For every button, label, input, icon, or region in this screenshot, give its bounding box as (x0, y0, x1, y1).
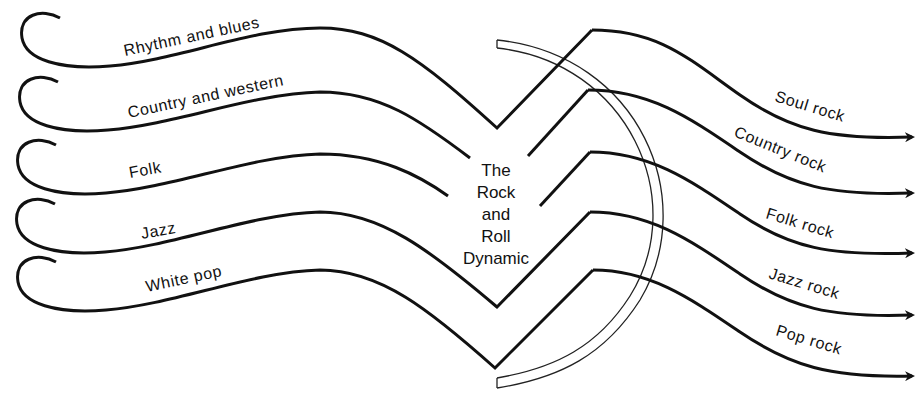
input-flow-white-pop (18, 257, 593, 368)
center-title-line-2: Rock (477, 183, 516, 202)
output-flow-pop-rock (593, 270, 912, 376)
center-title-line-1: The (481, 161, 510, 180)
output-flow-jazz-rock (590, 212, 912, 316)
input-label-country-and-western: Country and western (126, 71, 285, 121)
output-label-folk-rock: Folk rock (764, 205, 837, 242)
input-flow-rhythm-and-blues (22, 13, 592, 128)
dynamic-arc (497, 40, 663, 388)
output-label-pop-rock: Pop rock (774, 322, 844, 358)
output-flow-soul-rock (592, 30, 912, 138)
center-title-line-5: Dynamic (463, 249, 530, 268)
center-title: The Rock and Roll Dynamic (463, 161, 530, 268)
center-title-line-3: and (482, 205, 510, 224)
input-label-jazz: Jazz (140, 219, 178, 242)
center-title-line-4: Roll (481, 227, 510, 246)
input-flow-country-and-western (20, 77, 588, 158)
output-flow-folk-rock (590, 152, 912, 254)
input-label-folk: Folk (128, 158, 163, 180)
rock-and-roll-dynamic-diagram: Rhythm and blues Country and western Fol… (0, 0, 923, 406)
